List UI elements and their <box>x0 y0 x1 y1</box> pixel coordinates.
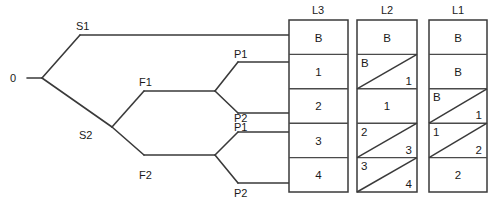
column-l3: B 1 2 3 4 <box>289 20 348 192</box>
l2-cell-3-top-left: 2 <box>361 126 367 138</box>
node-label-p1-upper: P1 <box>234 48 247 60</box>
column-header-l3: L3 <box>312 4 324 16</box>
l1-cell-2-top-left: B <box>433 91 441 103</box>
l1-cell-3-bottom-right: 2 <box>476 144 482 156</box>
l3-cell-2: 2 <box>315 100 321 112</box>
l1-cell-4: 2 <box>455 169 461 181</box>
node-label-f1: F1 <box>139 76 152 88</box>
branch-f1-to-p1 <box>215 62 238 91</box>
l2-cell-0: B <box>383 32 391 44</box>
tree-branches <box>27 35 289 183</box>
node-label-root: 0 <box>10 72 16 84</box>
l2-cell-2: 1 <box>384 100 390 112</box>
l1-cell-0: B <box>454 32 462 44</box>
column-header-l2: L2 <box>381 4 393 16</box>
node-label-p1-lower: P1 <box>234 121 247 133</box>
l2-cell-1-bottom-right: 1 <box>406 75 412 87</box>
l3-cell-1: 1 <box>315 66 321 78</box>
node-label-f2: F2 <box>139 169 152 181</box>
node-label-p2-lower: P2 <box>234 187 247 199</box>
column-l2: B B 1 1 2 3 3 4 <box>357 20 417 192</box>
node-label-s2: S2 <box>79 129 92 141</box>
branch-s2-to-f2 <box>112 127 144 155</box>
column-header-l1: L1 <box>452 4 464 16</box>
column-l1: B B B 1 1 2 2 <box>429 20 487 192</box>
branch-s2-to-f1 <box>112 91 144 127</box>
branch-f2-to-p1 <box>215 132 238 155</box>
l3-cell-3: 3 <box>315 135 321 147</box>
l2-cell-4-bottom-right: 4 <box>406 178 413 190</box>
l2-cell-4-top-left: 3 <box>361 160 367 172</box>
branch-root-to-s1 <box>42 35 80 78</box>
branch-f1-to-p2 <box>215 91 238 113</box>
tree-node-labels: 0 S1 S2 F1 F2 P1 P2 P1 P2 <box>10 20 248 199</box>
column-headers: L3 L2 L1 <box>312 4 464 16</box>
branch-root-to-s2 <box>42 78 112 127</box>
l3-cell-0: B <box>315 32 323 44</box>
l1-cell-3-top-left: 1 <box>433 126 439 138</box>
branch-f2-to-p2 <box>215 155 238 183</box>
l1-cell-1: B <box>454 66 462 78</box>
l1-cell-2-bottom-right: 1 <box>476 109 482 121</box>
tree-table-diagram: 0 S1 S2 F1 F2 P1 P2 P1 P2 L3 L2 L1 B 1 2… <box>0 0 504 207</box>
node-label-s1: S1 <box>76 20 89 32</box>
l3-cell-4: 4 <box>315 169 322 181</box>
l2-cell-3-bottom-right: 3 <box>406 144 412 156</box>
l2-cell-1-top-left: B <box>361 57 369 69</box>
